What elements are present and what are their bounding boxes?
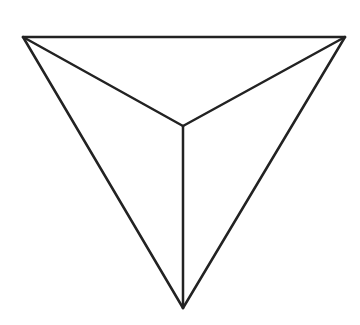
edge-left-inner: [23, 37, 183, 126]
tetrahedron-diagram: [0, 0, 360, 325]
edge-left-outer: [23, 37, 183, 308]
edge-right-inner: [183, 37, 345, 126]
edge-right-outer: [183, 37, 345, 308]
